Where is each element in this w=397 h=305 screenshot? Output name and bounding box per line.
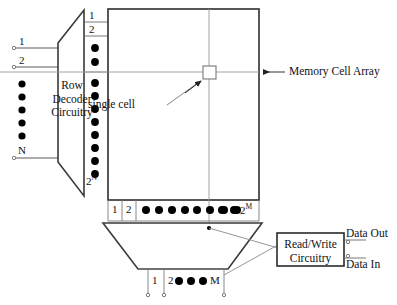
data-out-label: Data Out xyxy=(346,228,388,240)
column-address-label-m: M xyxy=(210,275,220,286)
row-address-terminals xyxy=(12,46,15,159)
memory-organization-diagram: 1 2 N Row Decoder Circuitry 1 2 2N singl… xyxy=(0,0,397,305)
word-line-label-1: 1 xyxy=(89,10,95,21)
word-line-dots-upper xyxy=(91,44,99,66)
word-line-last-exponent: N xyxy=(92,173,97,182)
bit-line-label-1: 1 xyxy=(112,204,118,215)
column-address-label-1: 1 xyxy=(152,275,158,286)
column-decoder-shape xyxy=(103,223,262,269)
bit-line-last-exponent: M xyxy=(246,202,253,211)
read-write-circuitry-text: Read/Write Circuitry xyxy=(277,238,344,265)
column-address-terminals xyxy=(146,293,225,296)
memory-cell-array-label: Memory Cell Array xyxy=(289,66,380,78)
row-address-ellipsis-dots xyxy=(18,80,25,139)
bit-line-label-last: 2M xyxy=(240,203,252,216)
column-address-dots xyxy=(175,277,207,285)
word-line-label-2: 2 xyxy=(89,24,95,35)
row-address-label-n: N xyxy=(18,145,26,156)
row-address-label-2: 2 xyxy=(19,55,25,66)
row-address-label-1: 1 xyxy=(19,36,25,47)
data-io-terminals xyxy=(346,240,349,257)
single-cell-shape xyxy=(203,66,216,79)
read-write-line-1: Read/Write xyxy=(277,238,344,252)
data-in-label: Data In xyxy=(346,259,380,271)
column-address-label-2: 2 xyxy=(168,275,174,286)
word-line-channel xyxy=(84,22,108,36)
bit-line-label-2: 2 xyxy=(126,204,132,215)
word-line-label-last: 2N xyxy=(86,174,97,187)
single-cell-label: single cell xyxy=(88,99,135,111)
read-write-line-2: Circuitry xyxy=(277,252,344,266)
row-decoder-line-1: Row xyxy=(50,79,94,93)
